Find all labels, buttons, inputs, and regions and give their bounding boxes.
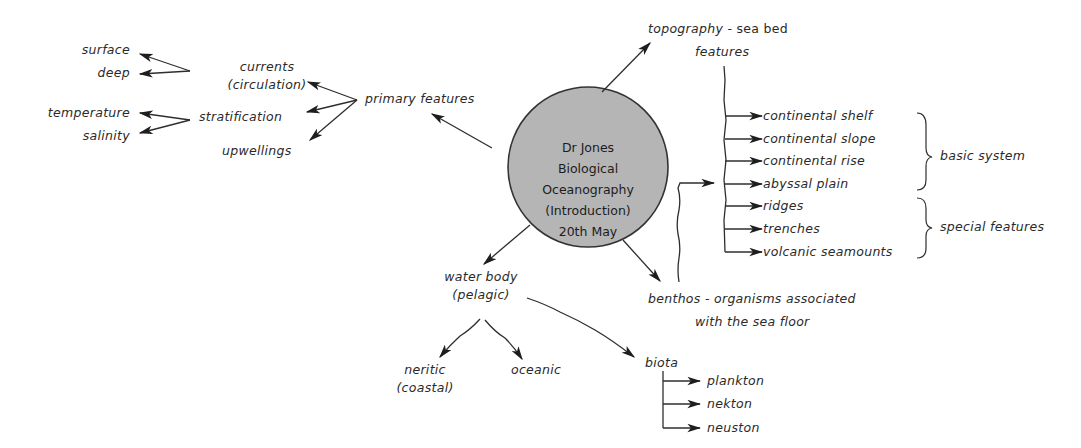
- node-water-body: water body (pelagic): [426, 268, 536, 304]
- biota-item-nekton: nekton: [707, 395, 752, 413]
- currents-sublabel: (circulation): [212, 76, 322, 94]
- topo-item-abyssal-plain: abyssal plain: [763, 175, 849, 193]
- node-benthos: benthos - organisms associated: [648, 290, 856, 308]
- benthos-title: benthos: [648, 291, 701, 306]
- biota-item-plankton: plankton: [707, 372, 764, 390]
- topography-line2: features: [695, 43, 749, 61]
- node-oceanic: oceanic: [511, 361, 561, 379]
- benthos-suffix: - organisms associated: [701, 291, 856, 306]
- hub-line-author: Dr Jones: [513, 137, 663, 158]
- topo-item-ridges: ridges: [763, 197, 803, 215]
- node-currents: currents (circulation): [212, 58, 322, 94]
- topography-title: topography: [648, 21, 723, 36]
- topography-suffix: - sea bed: [723, 21, 788, 36]
- node-upwellings: upwellings: [222, 142, 292, 160]
- node-stratification: stratification: [199, 108, 282, 126]
- topo-item-continental-slope: continental slope: [763, 130, 876, 148]
- neritic-sublabel: (coastal): [385, 379, 465, 397]
- topo-item-continental-shelf: continental shelf: [763, 107, 872, 125]
- node-topography: topography - sea bed: [648, 20, 788, 38]
- node-temperature: temperature: [20, 104, 130, 122]
- topo-item-volcanic-seamounts: volcanic seamounts: [763, 243, 893, 261]
- node-primary-features: primary features: [365, 90, 475, 108]
- biota-item-neuston: neuston: [707, 419, 760, 437]
- topo-item-trenches: trenches: [763, 220, 820, 238]
- hub-line-subject1: Biological: [513, 158, 663, 179]
- group-special-features: special features: [940, 218, 1044, 236]
- topo-item-continental-rise: continental rise: [763, 152, 865, 170]
- hub-line-date: 20th May: [513, 221, 663, 242]
- hub-line-subject2: Oceanography: [513, 179, 663, 200]
- mind-map-diagram: Dr Jones Biological Oceanography (Introd…: [0, 0, 1081, 448]
- node-surface: surface: [40, 41, 130, 59]
- water-body-sublabel: (pelagic): [426, 286, 536, 304]
- node-salinity: salinity: [40, 127, 130, 145]
- neritic-label: neritic: [385, 361, 465, 379]
- node-deep: deep: [40, 64, 130, 82]
- benthos-line2: with the sea floor: [695, 313, 810, 331]
- group-basic-system: basic system: [940, 147, 1025, 165]
- hub-node: Dr Jones Biological Oceanography (Introd…: [513, 137, 663, 242]
- currents-label: currents: [212, 58, 322, 76]
- water-body-label: water body: [426, 268, 536, 286]
- hub-line-subtitle: (Introduction): [513, 200, 663, 221]
- node-biota: biota: [645, 354, 678, 372]
- node-neritic: neritic (coastal): [385, 361, 465, 397]
